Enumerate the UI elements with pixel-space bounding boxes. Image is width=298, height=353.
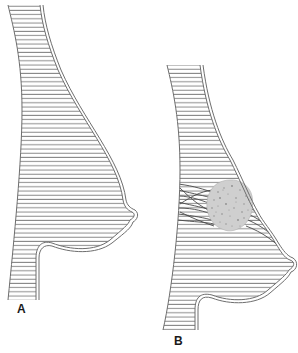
panel-b-breast xyxy=(155,60,298,335)
breast-diagram xyxy=(0,0,298,353)
panel-b-label: B xyxy=(174,334,183,348)
panel-a-breast xyxy=(0,0,150,305)
panel-a-label: A xyxy=(17,302,26,316)
